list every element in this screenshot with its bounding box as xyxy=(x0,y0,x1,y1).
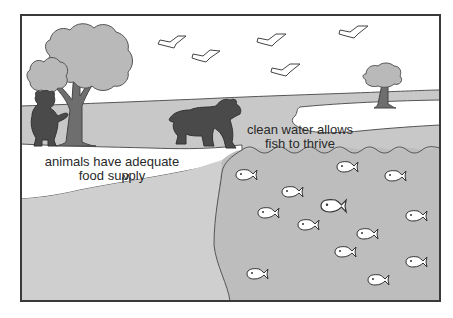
caption-land-line2: food supply xyxy=(32,169,192,183)
caption-water-line1: clean water allows xyxy=(230,123,370,137)
caption-land-line1: animals have adequate xyxy=(32,155,192,169)
caption-food-supply: animals have adequate food supply xyxy=(32,155,192,183)
caption-water-line2: fish to thrive xyxy=(230,137,370,151)
caption-clean-water: clean water allows fish to thrive xyxy=(230,123,370,151)
